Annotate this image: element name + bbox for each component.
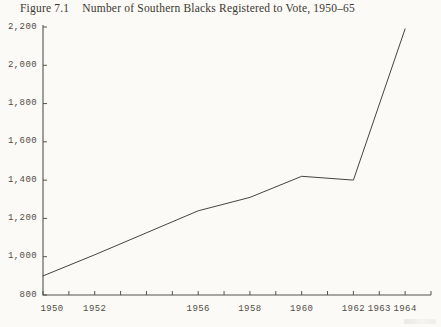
- x-axis-label: 1952: [81, 304, 109, 314]
- y-axis-label: 1,800: [0, 98, 37, 108]
- y-axis-label: 2,200: [0, 22, 37, 32]
- x-axis-label: 1950: [38, 304, 66, 314]
- x-axis-label: 1958: [236, 304, 264, 314]
- x-axis-label: 1956: [184, 304, 212, 314]
- y-axis-label: 1,400: [0, 175, 37, 185]
- y-axis-label: 1,000: [0, 251, 37, 261]
- y-axis-label: 2,000: [0, 60, 37, 70]
- chart-canvas: [0, 0, 441, 327]
- y-axis-label: 1,200: [0, 213, 37, 223]
- x-axis-label: 1964: [391, 304, 419, 314]
- x-axis-label: 1962: [339, 304, 367, 314]
- axes: [43, 25, 431, 295]
- scan-smudge: [404, 319, 436, 324]
- data-line: [43, 29, 405, 276]
- scanned-figure-page: Figure 7.1Number of Southern Blacks Regi…: [0, 0, 441, 327]
- y-axis-label: 1,600: [0, 136, 37, 146]
- line-chart: 8001,0001,2001,4001,6001,8002,0002,20019…: [0, 0, 441, 327]
- x-axis-label: 1963: [365, 304, 393, 314]
- x-axis-label: 1960: [288, 304, 316, 314]
- y-axis-label: 800: [0, 290, 37, 300]
